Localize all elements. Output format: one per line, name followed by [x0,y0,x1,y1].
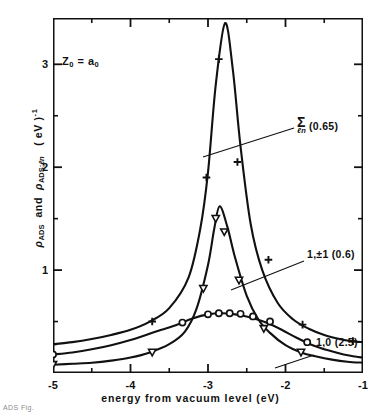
marker-triangle-down [221,229,228,236]
chart-svg [53,18,363,373]
leader-sigma-ln [203,128,294,157]
marker-circle [216,310,222,316]
y-axis-label: ρADS and ρADS;ℓn ( eV )-1 [30,68,46,288]
callout-sigma-subscript: ℓn [297,127,306,134]
annotation-z0: Z0 = a0 [62,55,99,69]
plot-area [53,18,363,373]
x-tick-label: -1 [358,379,368,391]
marker-plus [234,158,242,166]
x-tick-label: -2 [280,379,290,391]
marker-circle [205,311,211,317]
callout-sigma-ln: Σ ℓn (0.65) [297,117,338,134]
figure-container: -5-4-3-2-1 123 energy from vacuum level … [0,0,381,415]
marker-circle [179,319,185,325]
data-markers [53,55,357,368]
marker-circle [304,339,310,345]
leader-one-zero [275,355,314,368]
x-axis-label: energy from vacuum level (eV) [0,392,381,404]
axis-ticks [53,18,363,373]
callout-one-pm-one-label: 1,±1 (0.6) [307,248,355,260]
x-tick-label: -5 [48,379,58,391]
callout-one-zero: 1,0 (2.5) [316,336,358,348]
marker-circle [250,313,256,319]
marker-plus [53,340,57,348]
marker-triangle-down [149,349,156,356]
callout-sigma-value: (0.65) [309,120,338,132]
marker-triangle-down [297,349,304,356]
callout-leader-lines [203,128,314,368]
axis-frame [54,19,363,373]
caption-fragment: ADS Fig. [3,404,34,411]
marker-triangle-down [260,326,267,333]
callout-one-zero-label: 1,0 (2.5) [316,336,358,348]
marker-circle [267,318,273,324]
marker-circle [237,311,243,317]
curve-0 [53,23,363,344]
marker-plus [215,55,223,63]
marker-triangle-down [212,216,219,223]
x-tick-label: -4 [125,379,135,391]
marker-plus [265,256,273,264]
marker-circle [53,351,56,357]
marker-plus [203,174,211,182]
marker-circle [227,310,233,316]
callout-one-plusminus-one: 1,±1 (0.6) [307,248,355,260]
x-tick-label: -3 [203,379,213,391]
